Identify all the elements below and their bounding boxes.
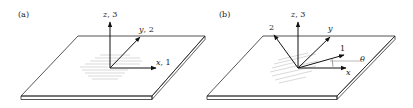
x-axis-b-label: x <box>346 68 351 77</box>
laminate-coordinate-diagram: (a) z, 3 y, 2 x, 1 (b) <box>0 0 413 108</box>
theta-label: θ <box>360 55 365 64</box>
theta-arc <box>332 59 333 67</box>
z-axis-b-label: z, 3 <box>290 10 305 19</box>
panel-b: (b) z, 3 2 y 1 x θ <box>207 10 395 100</box>
axis-1-label: 1 <box>340 44 345 53</box>
panel-a-label: (a) <box>18 10 29 19</box>
panel-b-label: (b) <box>219 10 230 19</box>
axis-2-label: 2 <box>269 23 274 32</box>
panel-a: (a) z, 3 y, 2 x, 1 <box>18 10 205 100</box>
x-axis-a-label: x, 1 <box>156 58 171 67</box>
y-axis-b-label: y <box>327 24 333 33</box>
y-axis-a-arrow <box>110 37 140 68</box>
y-axis-a-label: y, 2 <box>138 25 154 34</box>
z-axis-a-label: z, 3 <box>102 10 117 19</box>
